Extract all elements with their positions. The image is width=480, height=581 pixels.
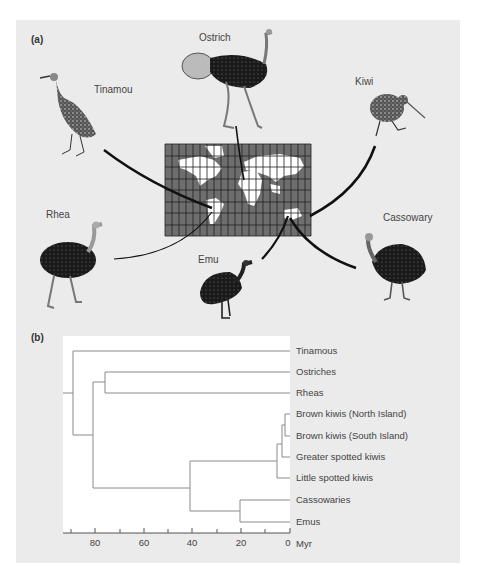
leaf-brown-kiwis-south: Brown kiwis (South Island) <box>296 430 408 441</box>
tick-80: 80 <box>90 537 101 548</box>
phylogenetic-tree <box>0 0 480 581</box>
tick-0: 0 <box>285 537 290 548</box>
leaf-ostriches: Ostriches <box>296 366 336 377</box>
leaf-brown-kiwis-north: Brown kiwis (North Island) <box>296 408 406 419</box>
time-axis <box>63 528 290 533</box>
axis-unit-label: Myr <box>296 538 312 549</box>
leaf-cassowaries: Cassowaries <box>296 494 350 505</box>
leaf-emus: Emus <box>296 516 320 527</box>
tick-20: 20 <box>236 537 247 548</box>
leaf-greater-spotted-kiwis: Greater spotted kiwis <box>296 451 385 462</box>
leaf-tinamous: Tinamous <box>296 345 337 356</box>
tick-40: 40 <box>187 537 198 548</box>
tick-60: 60 <box>139 537 150 548</box>
leaf-rheas: Rheas <box>296 387 323 398</box>
leaf-little-spotted-kiwis: Little spotted kiwis <box>296 472 373 483</box>
